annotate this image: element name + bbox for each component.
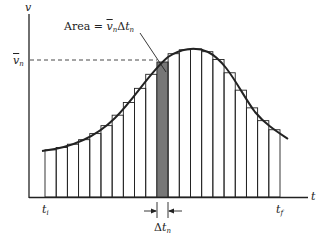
bar bbox=[90, 134, 101, 197]
bar bbox=[56, 148, 67, 197]
area-leader-line bbox=[140, 33, 166, 72]
bar bbox=[258, 121, 269, 197]
bar bbox=[112, 115, 123, 197]
bar bbox=[101, 126, 112, 197]
bar bbox=[79, 140, 90, 197]
riemann-bars bbox=[45, 49, 280, 197]
bar bbox=[202, 52, 213, 197]
bar bbox=[67, 144, 78, 197]
t-initial-label: ti bbox=[42, 204, 49, 217]
area-label: Area = vnΔtn bbox=[64, 21, 134, 34]
bar bbox=[235, 90, 246, 197]
shaded-bar bbox=[157, 62, 168, 197]
bar bbox=[269, 130, 280, 197]
bar bbox=[45, 150, 56, 197]
bar bbox=[146, 74, 157, 197]
bar bbox=[246, 108, 257, 197]
t-final-subscript: f bbox=[280, 209, 283, 217]
riemann-sum-diagram bbox=[0, 0, 333, 239]
bar bbox=[213, 60, 224, 197]
vbar-n-subscript: n bbox=[19, 60, 24, 68]
delta-t-n-label: Δtn bbox=[154, 222, 171, 235]
bar bbox=[135, 88, 146, 197]
bar bbox=[224, 73, 235, 197]
bar bbox=[123, 102, 134, 197]
area-t-sub: n bbox=[130, 26, 135, 34]
delta-symbol: Δ bbox=[154, 221, 162, 234]
bar bbox=[190, 49, 201, 197]
area-delta: Δ bbox=[117, 20, 125, 33]
t-initial-subscript: i bbox=[46, 209, 48, 217]
bar bbox=[168, 54, 179, 197]
delta-t-subscript: n bbox=[166, 227, 171, 235]
delta-left-arrowhead bbox=[151, 209, 157, 214]
y-axis-label: v bbox=[25, 2, 31, 13]
vbar-n-label: vn bbox=[13, 55, 24, 68]
delta-right-arrowhead bbox=[168, 209, 174, 214]
bar bbox=[179, 50, 190, 197]
x-axis-label: t bbox=[311, 191, 315, 202]
area-prefix: Area = bbox=[64, 20, 106, 33]
t-final-label: tf bbox=[276, 204, 283, 217]
